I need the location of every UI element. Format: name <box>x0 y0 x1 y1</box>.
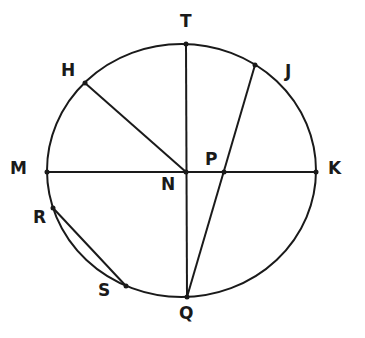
point-m <box>45 170 50 175</box>
label-k: K <box>328 158 342 178</box>
point-n <box>184 170 189 175</box>
label-t: T <box>180 11 192 31</box>
point-labels: THJMNPKRSQ <box>10 11 342 323</box>
label-m: M <box>10 158 27 178</box>
label-h: H <box>61 60 75 80</box>
segments <box>47 44 316 297</box>
point-t <box>184 42 189 47</box>
segment-hn <box>85 83 186 172</box>
points <box>45 42 319 300</box>
label-q: Q <box>179 303 193 323</box>
label-j: J <box>284 61 291 81</box>
point-p <box>222 170 227 175</box>
label-r: R <box>33 207 46 227</box>
segment-jq <box>187 65 255 297</box>
circle <box>47 44 316 297</box>
point-q <box>185 295 190 300</box>
label-n: N <box>161 174 175 194</box>
circle-diagram: THJMNPKRSQ <box>0 0 365 338</box>
label-p: P <box>205 149 217 169</box>
point-r <box>51 206 56 211</box>
point-j <box>253 63 258 68</box>
point-h <box>83 81 88 86</box>
label-s: S <box>98 280 110 300</box>
point-s <box>124 284 129 289</box>
point-k <box>314 170 319 175</box>
segment-rs <box>53 208 126 286</box>
